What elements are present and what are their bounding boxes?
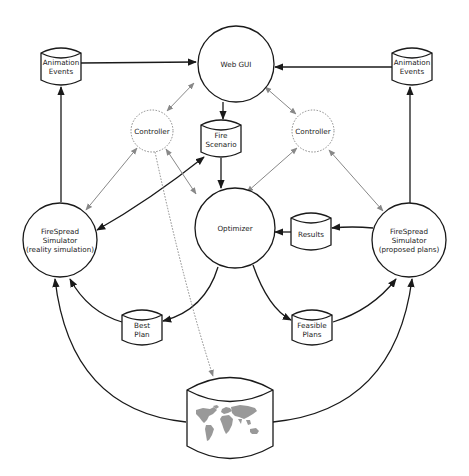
label-line: Scenario	[205, 140, 236, 149]
edge-controllerright-optimizer	[247, 148, 297, 192]
edge-webgui-controllerleft	[167, 83, 194, 111]
edge-optimizer-to-bestplan	[163, 267, 218, 321]
label-controller-right: Controller	[295, 127, 330, 136]
edge-controllerleft-to-map	[155, 152, 213, 376]
label-line: Animation	[43, 58, 80, 67]
label-line: Plan	[134, 330, 150, 339]
label-line: Best	[134, 321, 150, 330]
label-firespread-sim-right: FireSpread Simulator (proposed plans)	[379, 227, 440, 254]
edge-webgui-controllerright	[265, 87, 296, 114]
edge-controllerleft-optimizer	[166, 149, 196, 194]
label-feasible-plans: Feasible Plans	[297, 321, 326, 339]
edge-anim-left-to-webgui	[81, 62, 196, 63]
edge-map-to-simleft	[55, 279, 186, 422]
label-line: Animation	[394, 58, 431, 67]
edge-controllerleft-simleft	[86, 148, 137, 210]
edge-controllerright-simright	[329, 150, 383, 211]
edge-map-to-simright	[273, 279, 412, 422]
label-firespread-sim-left: FireSpread Simulator (reality simulation…	[26, 227, 94, 254]
label-line: Simulator	[26, 236, 94, 245]
label-line: (proposed plans)	[379, 245, 440, 254]
label-line: Events	[43, 67, 80, 76]
edge-optimizer-to-feasibleplans	[253, 265, 291, 320]
diagram-canvas: Web GUI Animation Events Animation Event…	[0, 0, 469, 476]
label-controller-left: Controller	[134, 127, 169, 136]
label-line: Events	[394, 67, 431, 76]
label-line: Plans	[297, 330, 326, 339]
label-line: FireSpread	[379, 227, 440, 236]
label-line: Feasible	[297, 321, 326, 330]
edge-simright-to-results	[332, 227, 373, 228]
label-animation-events-left: Animation Events	[43, 58, 80, 76]
edge-feasibleplans-to-simright	[333, 279, 396, 322]
label-line: Simulator	[379, 236, 440, 245]
edge-bestplan-to-simleft	[70, 279, 122, 322]
label-best-plan: Best Plan	[134, 321, 150, 339]
label-fire-scenario: Fire Scenario	[205, 131, 236, 149]
label-line: Fire	[205, 131, 236, 140]
label-line: FireSpread	[26, 227, 94, 236]
label-results: Results	[298, 230, 324, 239]
label-line: (reality simulation)	[26, 245, 94, 254]
label-web-gui: Web GUI	[221, 60, 252, 69]
edge-firescenario-simleft	[97, 157, 204, 230]
label-animation-events-right: Animation Events	[394, 58, 431, 76]
label-optimizer: Optimizer	[217, 224, 252, 233]
